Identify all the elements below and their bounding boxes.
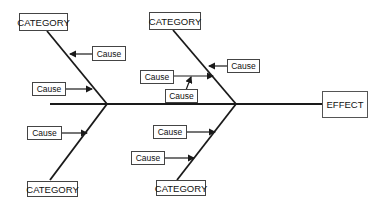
bone-bottom-right (177, 104, 236, 180)
cause-box: Cause (165, 89, 198, 103)
cause-box: Cause (92, 46, 126, 61)
cause-box: Cause (27, 126, 62, 140)
category-box-bottom-left: CATEGORY (27, 181, 78, 197)
category-box-bottom-right: CATEGORY (156, 180, 206, 196)
cause-box: Cause (32, 82, 66, 96)
category-box-top-right: CATEGORY (149, 12, 201, 30)
cause-box: Cause (140, 70, 174, 84)
cause-box: Cause (131, 151, 165, 165)
cause-box: Cause (153, 125, 187, 139)
bone-bottom-left (50, 104, 107, 180)
category-box-top-left: CATEGORY (19, 13, 68, 31)
cause-box: Cause (227, 59, 260, 73)
effect-box: EFFECT (322, 91, 368, 118)
